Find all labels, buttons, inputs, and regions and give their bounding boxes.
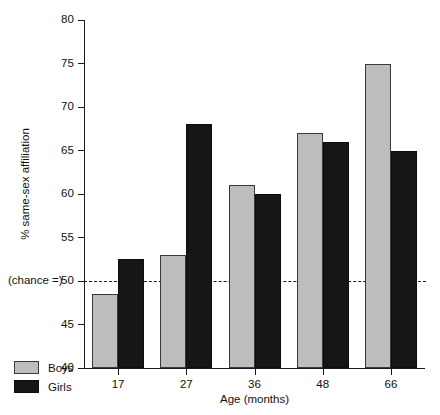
bar-boys-66: [365, 64, 391, 369]
y-tick-label: 70: [34, 101, 74, 113]
x-tick-label: 27: [156, 378, 216, 390]
x-tick-mark: [118, 369, 119, 375]
y-tick-label: 65: [34, 145, 74, 157]
y-tick-label: 55: [34, 232, 74, 244]
chance-annotation-label: (chance =): [8, 275, 63, 287]
x-tick-label: 66: [361, 378, 421, 390]
y-axis-title: % same-sex affiliation: [19, 104, 31, 264]
x-tick-mark: [186, 369, 187, 375]
bar-girls-17: [118, 259, 144, 368]
bar-girls-36: [255, 194, 281, 368]
bar-chart-figure: 404550556065707580 (chance =) 1727364866…: [0, 0, 440, 415]
legend-label-girls: Girls: [48, 381, 72, 393]
x-tick-label: 48: [293, 378, 353, 390]
x-axis-title: Age (months): [84, 393, 425, 405]
bar-boys-17: [92, 294, 118, 368]
bar-girls-27: [186, 124, 212, 368]
x-tick-mark: [255, 369, 256, 375]
bar-boys-48: [297, 133, 323, 368]
y-tick-label: 75: [34, 58, 74, 70]
y-tick-label: 80: [34, 14, 74, 26]
legend-item-boys: Boys: [14, 358, 74, 377]
bar-girls-66: [391, 151, 417, 369]
legend-swatch-boys: [14, 361, 39, 374]
bar-girls-48: [323, 142, 349, 368]
legend-label-boys: Boys: [48, 362, 74, 374]
x-tick-mark: [391, 369, 392, 375]
x-tick-label: 36: [225, 378, 285, 390]
y-tick-label: 45: [34, 319, 74, 331]
legend-swatch-girls: [14, 380, 39, 393]
x-tick-label: 17: [88, 378, 148, 390]
bar-boys-36: [229, 185, 255, 368]
bar-boys-27: [160, 255, 186, 368]
y-tick-label: 60: [34, 188, 74, 200]
chart-legend: BoysGirls: [14, 358, 74, 396]
x-tick-mark: [323, 369, 324, 375]
legend-item-girls: Girls: [14, 377, 74, 396]
plot-area: [84, 20, 425, 368]
